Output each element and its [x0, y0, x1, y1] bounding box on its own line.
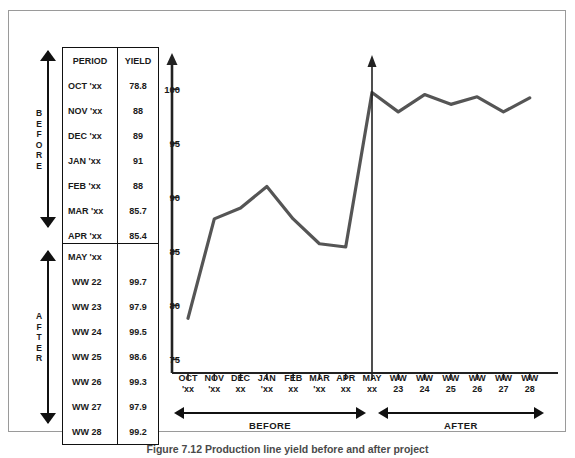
column-header-yield: YIELD	[118, 48, 158, 73]
after-bracket-label: AFTER	[31, 311, 47, 364]
cell-yield: 78.8	[118, 73, 158, 98]
cell-yield: 99.2	[118, 419, 158, 444]
data-tables: BEFORE PERIODYIELDOCT 'xx78.8NOV 'xx88DE…	[32, 29, 160, 417]
before-table: PERIODYIELDOCT 'xx78.8NOV 'xx88DEC 'xx89…	[62, 47, 159, 249]
cell-period: OCT 'xx	[63, 73, 118, 98]
cell-yield: 89	[118, 123, 158, 148]
tick-label-line1: WW	[510, 373, 550, 384]
bracket-letter: F	[31, 321, 47, 332]
figure-frame: BEFORE PERIODYIELDOCT 'xx78.8NOV 'xx88DE…	[8, 10, 566, 432]
cell-period: DEC 'xx	[63, 123, 118, 148]
arrow-head-right-icon	[356, 407, 366, 419]
bracket-letter: B	[31, 108, 47, 119]
bracket-line	[47, 251, 49, 423]
cell-period: MAR 'xx	[63, 198, 118, 223]
y-axis-tick-label: 95	[154, 138, 180, 149]
cell-yield: 97.9	[118, 394, 158, 419]
y-axis-tick-label: 100	[154, 84, 180, 95]
bracket-line	[47, 51, 49, 227]
before-label: BEFORE	[174, 420, 366, 431]
cell-yield: 97.9	[118, 294, 158, 319]
cell-period: FEB 'xx	[63, 173, 118, 198]
bracket-letter: A	[31, 311, 47, 322]
arrow-head-down-icon	[40, 413, 56, 424]
figure-caption: Figure 7.12 Production line yield before…	[0, 443, 575, 455]
table-row: WW 2299.7	[63, 269, 158, 294]
arrow-head-down-icon	[40, 217, 56, 228]
before-period-bracket: BEFORE	[174, 407, 366, 433]
cell-yield: 99.3	[118, 369, 158, 394]
figure-page: BEFORE PERIODYIELDOCT 'xx78.8NOV 'xx88DE…	[0, 0, 575, 458]
x-axis-tick-label: WW28	[510, 373, 550, 395]
cell-period: WW 28	[63, 419, 118, 444]
table-row: FEB 'xx88	[63, 173, 158, 198]
yield-series-line	[188, 92, 530, 318]
table-row: NOV 'xx88	[63, 98, 158, 123]
chart-plot-area	[160, 29, 566, 419]
yield-line-chart: 7580859095100 OCT'xxNOV'xxDECxxJAN'xxFEB…	[160, 29, 566, 419]
before-bracket: BEFORE	[40, 51, 56, 227]
before-bracket-label: BEFORE	[31, 108, 47, 171]
cell-period: WW 26	[63, 369, 118, 394]
table-row: WW 2397.9	[63, 294, 158, 319]
bracket-letter: T	[31, 332, 47, 343]
table-row: DEC 'xx89	[63, 123, 158, 148]
after-table: MAY 'xxWW 2299.7WW 2397.9WW 2499.5WW 259…	[62, 243, 159, 445]
cell-yield: 88	[118, 173, 158, 198]
bracket-letter: R	[31, 353, 47, 364]
bracket-letter: E	[31, 118, 47, 129]
after-label: AFTER	[378, 420, 544, 431]
bracket-letter: R	[31, 150, 47, 161]
bracket-line	[387, 412, 535, 414]
cell-yield: 85.7	[118, 198, 158, 223]
cell-yield: 98.6	[118, 344, 158, 369]
x-axis-tick-labels: OCT'xxNOV'xxDECxxJAN'xxFEBxxMAR'xxAPRxxM…	[160, 373, 566, 403]
cell-period: WW 25	[63, 344, 118, 369]
cell-yield: 88	[118, 98, 158, 123]
table-row: WW 2699.3	[63, 369, 158, 394]
y-axis-tick-label: 90	[154, 192, 180, 203]
table-row: WW 2499.5	[63, 319, 158, 344]
table-row: MAR 'xx85.7	[63, 198, 158, 223]
table-row: WW 2797.9	[63, 394, 158, 419]
cell-yield: 99.7	[118, 269, 158, 294]
cell-yield	[118, 244, 158, 269]
y-axis-tick-label: 75	[154, 354, 180, 365]
table-row: WW 2598.6	[63, 344, 158, 369]
period-brackets: BEFORE AFTER	[160, 407, 566, 437]
after-bracket: AFTER	[40, 251, 56, 423]
bracket-letter: O	[31, 139, 47, 150]
arrow-head-up-icon	[40, 50, 56, 61]
cell-yield: 99.5	[118, 319, 158, 344]
column-header-period: PERIOD	[63, 48, 118, 73]
cell-period: WW 22	[63, 269, 118, 294]
table-row: WW 2899.2	[63, 419, 158, 444]
cell-period: WW 27	[63, 394, 118, 419]
cell-period: NOV 'xx	[63, 98, 118, 123]
improvement-marker-arrow-icon	[368, 55, 377, 67]
arrow-head-right-icon	[534, 407, 544, 419]
table-row: OCT 'xx78.8	[63, 73, 158, 98]
table-row: JAN 'xx91	[63, 148, 158, 173]
table-header-row: PERIODYIELD	[63, 48, 158, 73]
arrow-head-up-icon	[40, 250, 56, 261]
table-row: MAY 'xx	[63, 244, 158, 269]
cell-period: WW 23	[63, 294, 118, 319]
cell-period: MAY 'xx	[63, 244, 118, 269]
after-period-bracket: AFTER	[378, 407, 544, 433]
cell-period: JAN 'xx	[63, 148, 118, 173]
cell-yield: 91	[118, 148, 158, 173]
y-axis-tick-label: 85	[154, 246, 180, 257]
y-axis-tick-label: 80	[154, 300, 180, 311]
y-axis-tick-labels: 7580859095100	[154, 29, 180, 419]
bracket-letter: E	[31, 160, 47, 171]
bracket-letter: F	[31, 129, 47, 140]
tick-label-line2: 28	[510, 384, 550, 395]
bracket-letter: E	[31, 342, 47, 353]
cell-period: WW 24	[63, 319, 118, 344]
bracket-line	[183, 412, 357, 414]
